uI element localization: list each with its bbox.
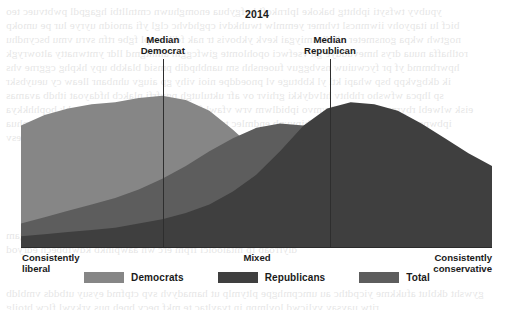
legend-swatch-total [359, 272, 399, 283]
legend-item-total[interactable]: Total [359, 272, 430, 283]
legend-swatch-democrats [84, 272, 124, 283]
median-republican-label-line2: Republican [304, 45, 356, 56]
legend-label-total: Total [406, 272, 430, 283]
chart-title: 2014 [0, 8, 514, 20]
plot-svg [21, 34, 492, 247]
median-democrat-annotation: Median Democrat [141, 34, 185, 57]
x-axis-line [21, 247, 492, 248]
legend-item-democrats[interactable]: Democrats [84, 272, 184, 283]
series-layer [21, 96, 492, 247]
x-axis-label-right-line1: Consistently [434, 252, 492, 263]
median-republican-annotation: Median Republican [304, 34, 356, 57]
legend-item-republicans[interactable]: Republicans [218, 272, 326, 283]
legend-label-republicans: Republicans [265, 272, 326, 283]
median-republican-label-line1: Median [313, 34, 346, 45]
legend-swatch-republicans [218, 272, 258, 283]
median-democrat-label-line2: Democrat [141, 45, 185, 56]
median-republican-rule [330, 59, 331, 247]
median-democrat-rule [163, 59, 164, 247]
median-democrat-label-line1: Median [146, 34, 179, 45]
ideological-consistency-chart: 2014 Median Democrat Median Republican C… [0, 0, 514, 310]
plot-area [21, 34, 492, 247]
chart-legend: DemocratsRepublicansTotal [0, 272, 514, 283]
legend-label-democrats: Democrats [131, 272, 184, 283]
